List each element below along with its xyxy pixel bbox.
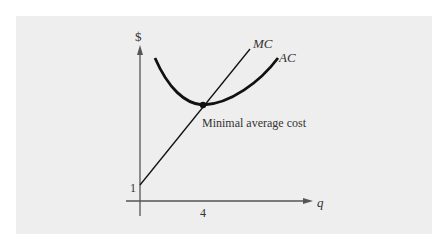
x-tick-4: 4	[200, 207, 206, 219]
x-axis-arrow-icon	[303, 198, 313, 204]
ac-curve	[155, 58, 278, 105]
ac-label: AC	[279, 51, 296, 64]
minimum-point	[200, 102, 206, 108]
mc-label: MC	[253, 37, 273, 50]
minimal-average-cost-annotation: Minimal average cost	[202, 117, 306, 129]
y-axis-label: $	[135, 30, 142, 43]
y-tick-1: 1	[130, 182, 136, 194]
x-axis-label: q	[317, 196, 324, 209]
y-axis-arrow-icon	[137, 45, 143, 55]
